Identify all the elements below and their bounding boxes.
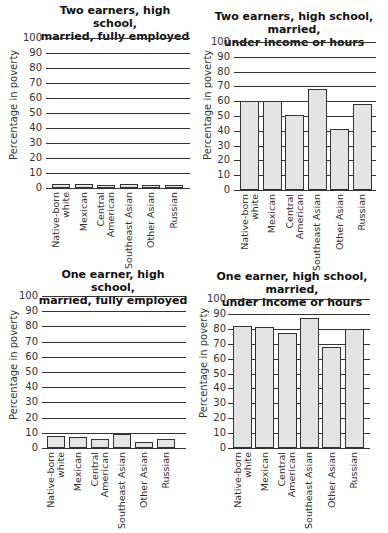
y-tick-label: 60 bbox=[18, 352, 38, 362]
x-category-label: Mexican bbox=[260, 452, 270, 533]
gridline bbox=[46, 38, 190, 39]
gridline bbox=[46, 173, 190, 174]
x-category-label: Southeast Asian bbox=[304, 452, 314, 533]
x-axis-line bbox=[46, 188, 190, 189]
x-category-label: Central American bbox=[277, 452, 297, 533]
gridline bbox=[42, 402, 186, 403]
bar bbox=[142, 185, 160, 188]
bar bbox=[75, 184, 93, 188]
y-tick-label: 0 bbox=[22, 183, 42, 193]
gridline bbox=[42, 387, 186, 388]
gridline bbox=[42, 372, 186, 373]
y-tick-label: 100 bbox=[206, 294, 226, 304]
y-tick-label: 80 bbox=[22, 63, 42, 73]
gridline bbox=[228, 314, 370, 315]
y-tick-label: 0 bbox=[18, 443, 38, 453]
y-tick-label: 60 bbox=[22, 93, 42, 103]
gridline bbox=[42, 326, 186, 327]
y-axis-label: Percentage in poverty bbox=[8, 50, 19, 160]
y-tick-label: 100 bbox=[22, 33, 42, 43]
y-tick-label: 100 bbox=[18, 291, 38, 301]
x-category-label: Other Asian bbox=[327, 452, 337, 533]
x-category-label: Native-born white bbox=[46, 452, 66, 533]
y-tick-label: 90 bbox=[18, 306, 38, 316]
bar bbox=[113, 434, 131, 448]
gridline bbox=[46, 143, 190, 144]
x-category-label: Mexican bbox=[73, 452, 83, 533]
y-tick-label: 50 bbox=[18, 367, 38, 377]
y-tick-label: 40 bbox=[22, 123, 42, 133]
bar bbox=[157, 439, 175, 448]
x-axis-line bbox=[234, 190, 376, 191]
gridline bbox=[42, 418, 186, 419]
gridline bbox=[46, 98, 190, 99]
x-category-label: Other Asian bbox=[139, 452, 149, 533]
y-tick-label: 0 bbox=[210, 185, 230, 195]
bar bbox=[165, 185, 183, 188]
gridline bbox=[46, 158, 190, 159]
bar bbox=[330, 129, 349, 190]
y-tick-label: 70 bbox=[18, 337, 38, 347]
y-tick-label: 70 bbox=[22, 78, 42, 88]
chart-title: One earner, high school, married,under i… bbox=[198, 270, 386, 309]
y-tick-label: 20 bbox=[18, 413, 38, 423]
bar bbox=[345, 329, 364, 448]
bar bbox=[278, 333, 297, 448]
bar bbox=[263, 101, 282, 190]
bar bbox=[353, 104, 372, 190]
bar bbox=[322, 347, 341, 448]
y-tick-label: 40 bbox=[210, 126, 230, 136]
y-tick-label: 30 bbox=[206, 398, 226, 408]
bar bbox=[135, 442, 153, 448]
x-category-label: Russian bbox=[161, 452, 171, 533]
x-category-label: Central American bbox=[90, 452, 110, 533]
chart-title-line: under income or hours bbox=[198, 296, 386, 309]
gridline bbox=[46, 53, 190, 54]
y-tick-label: 60 bbox=[210, 96, 230, 106]
y-tick-label: 10 bbox=[210, 170, 230, 180]
bar bbox=[255, 327, 274, 448]
bar bbox=[120, 184, 138, 188]
gridline bbox=[234, 72, 376, 73]
bar bbox=[240, 101, 259, 190]
y-tick-label: 70 bbox=[210, 81, 230, 91]
y-tick-label: 50 bbox=[210, 111, 230, 121]
y-tick-label: 10 bbox=[18, 428, 38, 438]
bar bbox=[47, 436, 65, 448]
bar bbox=[300, 318, 319, 448]
y-tick-label: 80 bbox=[210, 67, 230, 77]
gridline bbox=[42, 357, 186, 358]
x-category-label: Native-born white bbox=[233, 452, 253, 533]
y-tick-label: 20 bbox=[206, 413, 226, 423]
gridline bbox=[46, 128, 190, 129]
y-tick-label: 30 bbox=[18, 397, 38, 407]
chart-title: One earner, high school,married, fully e… bbox=[38, 268, 188, 307]
bar bbox=[91, 439, 109, 448]
chart-title-line: One earner, high school, bbox=[38, 268, 188, 294]
chart-title-line: Two earners, high school, bbox=[40, 4, 190, 30]
y-tick-label: 90 bbox=[206, 309, 226, 319]
bar bbox=[69, 437, 87, 448]
y-tick-label: 100 bbox=[210, 37, 230, 47]
y-tick-label: 80 bbox=[18, 321, 38, 331]
y-tick-label: 20 bbox=[22, 153, 42, 163]
y-tick-label: 40 bbox=[206, 383, 226, 393]
x-axis-line bbox=[42, 448, 186, 449]
gridline bbox=[42, 296, 186, 297]
y-tick-label: 40 bbox=[18, 382, 38, 392]
chart-title-line: One earner, high school, married, bbox=[198, 270, 386, 296]
y-tick-label: 90 bbox=[210, 52, 230, 62]
bar bbox=[52, 184, 70, 189]
x-category-label: Russian bbox=[349, 452, 359, 533]
chart-title-line: Two earners, high school, married, bbox=[200, 10, 388, 36]
x-category-label: Southeast Asian bbox=[117, 452, 127, 533]
gridline bbox=[228, 299, 370, 300]
gridline bbox=[42, 311, 186, 312]
gridline bbox=[42, 342, 186, 343]
y-tick-label: 50 bbox=[22, 108, 42, 118]
bar bbox=[233, 326, 252, 448]
chart-title-line: married, fully employed bbox=[40, 30, 190, 43]
y-tick-label: 0 bbox=[206, 443, 226, 453]
y-tick-label: 10 bbox=[206, 428, 226, 438]
y-tick-label: 10 bbox=[22, 168, 42, 178]
